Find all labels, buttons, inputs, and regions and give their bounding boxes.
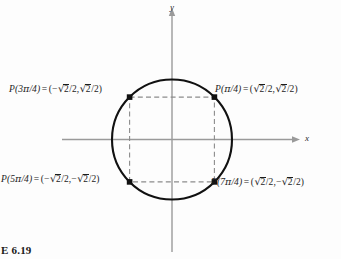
radical-x-5pi-4: √2 xyxy=(49,173,61,185)
label-coord-mid-5pi-4: /2,− xyxy=(61,174,77,184)
point-label-5pi-4: P(5π/4)=(−√2/2,−√2/2) xyxy=(1,173,100,185)
radicand-y-7pi-4: 2 xyxy=(287,177,293,188)
point-label-pi-4: P(π/4)=(√2/2,√2/2) xyxy=(215,83,298,95)
label-equals-3pi-4: = xyxy=(40,84,48,94)
point-marker-3pi-4 xyxy=(127,94,133,100)
radicand-x-3pi-4: 2 xyxy=(63,84,69,95)
radical-x-7pi-4: √2 xyxy=(254,176,266,188)
label-prefix-5pi-4: P(5 xyxy=(1,174,15,184)
radicand-x-5pi-4: 2 xyxy=(55,174,61,185)
radicand-x-pi-4: 2 xyxy=(259,84,265,95)
x-axis-label: x xyxy=(305,133,309,143)
label-coord-end-pi-4: /2) xyxy=(287,84,298,94)
label-suffix-pi-4: /4) xyxy=(231,84,242,94)
point-marker-pi-4 xyxy=(212,94,218,100)
label-coord-open-3pi-4: (− xyxy=(49,84,58,94)
label-coord-open-5pi-4: (− xyxy=(41,174,50,184)
label-coord-mid-3pi-4: /2, xyxy=(69,84,79,94)
radicand-y-3pi-4: 2 xyxy=(85,84,91,95)
radicand-x-7pi-4: 2 xyxy=(260,177,266,188)
label-equals-5pi-4: = xyxy=(32,174,40,184)
figure-caption: E 6.19 xyxy=(1,244,32,256)
point-label-7pi-4: P(7π/4)=(√2/2,−√2/2) xyxy=(211,176,304,188)
radical-y-7pi-4: √2 xyxy=(281,176,293,188)
figure-unit-circle: y x P(3π/4)=(−√2/2,√2/2) P(π/4)=(√2/2,√2… xyxy=(0,0,341,259)
point-label-3pi-4: P(3π/4)=(−√2/2,√2/2) xyxy=(9,83,102,95)
label-coord-mid-pi-4: /2, xyxy=(265,84,275,94)
point-marker-5pi-4 xyxy=(127,179,133,185)
label-coord-mid-7pi-4: /2,− xyxy=(266,177,282,187)
label-prefix-7pi-4: P(7 xyxy=(211,177,225,187)
radical-x-pi-4: √2 xyxy=(253,83,265,95)
radical-y-5pi-4: √2 xyxy=(77,173,89,185)
x-axis-arrowhead xyxy=(292,136,300,142)
label-prefix-pi-4: P( xyxy=(215,84,224,94)
radicand-y-pi-4: 2 xyxy=(281,84,287,95)
label-coord-end-7pi-4: /2) xyxy=(293,177,304,187)
label-suffix-3pi-4: /4) xyxy=(29,84,40,94)
label-coord-end-5pi-4: /2) xyxy=(89,174,100,184)
label-suffix-7pi-4: /4) xyxy=(231,177,242,187)
radical-x-3pi-4: √2 xyxy=(57,83,69,95)
radical-y-3pi-4: √2 xyxy=(79,83,91,95)
label-coord-end-3pi-4: /2) xyxy=(91,84,102,94)
radical-y-pi-4: √2 xyxy=(275,83,287,95)
unit-circle-diagram xyxy=(0,0,341,259)
y-axis-label: y xyxy=(170,2,174,12)
radicand-y-5pi-4: 2 xyxy=(83,174,89,185)
label-prefix-3pi-4: P(3 xyxy=(9,84,23,94)
label-equals-7pi-4: = xyxy=(242,177,250,187)
label-equals-pi-4: = xyxy=(241,84,249,94)
label-suffix-5pi-4: /4) xyxy=(21,174,32,184)
